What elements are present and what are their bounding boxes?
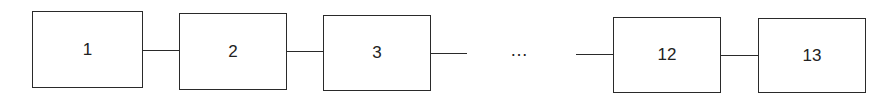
node-12: 12	[613, 17, 721, 93]
node-label: 13	[803, 46, 822, 66]
node-1: 1	[32, 11, 143, 88]
connector-1-2	[142, 50, 180, 51]
connector-2-3	[286, 51, 324, 52]
connector-3-ellipsis	[430, 53, 467, 54]
connector-ellipsis-12	[576, 54, 614, 55]
node-label: 3	[372, 43, 381, 63]
node-13: 13	[758, 18, 866, 93]
node-label: 1	[83, 40, 92, 60]
node-3: 3	[323, 15, 431, 91]
connector-12-13	[721, 55, 759, 56]
ellipsis: …	[510, 40, 530, 61]
node-2: 2	[179, 13, 287, 90]
node-label: 12	[658, 45, 677, 65]
node-label: 2	[228, 42, 237, 62]
